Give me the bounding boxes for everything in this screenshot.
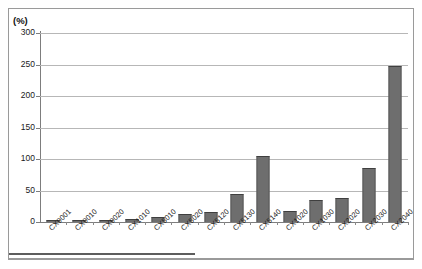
- x-axis-tick-label: CX5140: [257, 207, 283, 232]
- x-axis-tick-label: CX2020: [336, 207, 362, 232]
- x-axis-tick-label: CX5010: [152, 207, 178, 232]
- x-axis-tick-label: CX2040: [389, 207, 415, 232]
- bar-chart-figure: (%) 050100150200250300 CX9001CX9010CX902…: [0, 0, 422, 269]
- x-axis-tick-label: CX9010: [73, 207, 99, 232]
- page-rule-thick: [9, 253, 195, 255]
- page-rule-thin: [9, 258, 413, 259]
- x-axis-tick-label: CX1030: [310, 207, 336, 232]
- x-axis-tick-label: CX5120: [205, 207, 231, 232]
- x-axis-tick-label: CX9001: [47, 207, 73, 232]
- x-axis-tick-label: CX1020: [284, 207, 310, 232]
- x-axis-tick-label: CX9020: [100, 207, 126, 232]
- x-axis-tick-label: CX2030: [363, 207, 389, 232]
- x-axis-tick-label: CX5130: [231, 207, 257, 232]
- x-axis-tick-label: CX5020: [179, 207, 205, 232]
- x-axis-tick-label: CX1010: [126, 207, 152, 232]
- x-axis-tick-labels: CX9001CX9010CX9020CX1010CX5010CX5020CX51…: [0, 0, 422, 269]
